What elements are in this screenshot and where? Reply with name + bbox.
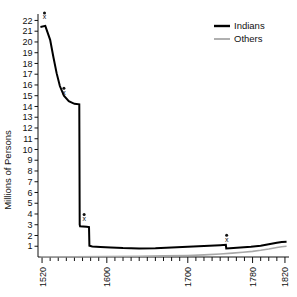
y-axis-tick-label: 7 (27, 177, 32, 187)
y-axis-title: Millions of Persons (2, 130, 13, 210)
y-axis-tick-label: 11 (23, 134, 32, 144)
y-axis-tick-label: 16 (22, 80, 32, 90)
y-axis-tick-label: 14 (22, 102, 32, 112)
y-axis-tick-label: 3 (27, 220, 32, 230)
x-axis-tick-label: 1600 (102, 267, 112, 287)
marker-x-icon: x (43, 13, 47, 20)
y-axis-tick-label: 8 (27, 166, 32, 176)
y-axis-tick-label: 10 (22, 145, 32, 155)
y-axis-tick-label: 6 (27, 188, 32, 198)
y-axis-tick-label: 15 (22, 91, 32, 101)
y-axis-tick-label: 1 (27, 241, 32, 251)
marker-x-icon: x (225, 236, 229, 243)
y-axis-tick-label: 9 (27, 155, 32, 165)
marker-x-icon: x (62, 89, 66, 96)
y-axis-tick-label: 12 (22, 123, 32, 133)
population-decline-line-chart: Millions of Persons 12345678910111213141… (0, 0, 297, 297)
y-axis-tick-label: 13 (22, 112, 32, 122)
y-axis-tick-label: 17 (22, 69, 32, 79)
legend-label-others: Others (234, 33, 263, 44)
y-axis-tick-label: 20 (22, 37, 32, 47)
x-axis-tick-label: 1820 (280, 267, 290, 287)
chart-background (0, 0, 297, 297)
y-axis-tick-label: 21 (22, 26, 32, 36)
legend-label-indians: Indians (234, 20, 265, 31)
y-axis-tick-label: 18 (22, 59, 32, 69)
marker-x-icon: x (82, 215, 86, 222)
x-axis-tick-label: 1780 (248, 267, 258, 287)
x-axis-tick-label: 1520 (38, 267, 48, 287)
y-axis-tick-label: 4 (27, 209, 32, 219)
y-axis-tick-label: 22 (22, 16, 32, 26)
y-axis-tick-label: 5 (27, 198, 32, 208)
y-axis-tick-label: 19 (22, 48, 32, 58)
x-axis-tick-label: 1700 (183, 267, 193, 287)
chart-container: Millions of Persons 12345678910111213141… (0, 0, 297, 297)
y-axis-tick-label: 2 (27, 231, 32, 241)
